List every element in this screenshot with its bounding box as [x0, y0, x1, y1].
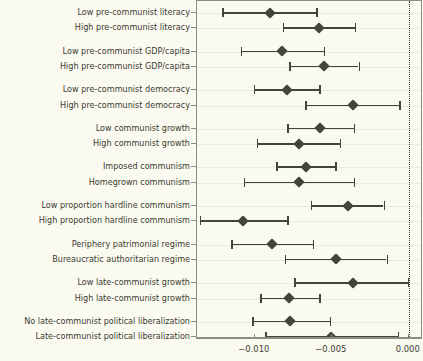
y-axis-label: Imposed communism — [0, 161, 190, 171]
estimate-row — [197, 60, 421, 74]
y-axis-label: High communist growth — [0, 138, 190, 148]
estimate-row — [197, 292, 421, 306]
ci-lower-cap — [257, 139, 259, 148]
point-estimate-marker — [293, 177, 304, 188]
y-axis-label: Low pre-communist democracy — [0, 84, 190, 94]
estimate-row — [197, 160, 421, 174]
estimate-row — [197, 99, 421, 113]
x-axis-tick-label: −0.010 — [238, 344, 269, 354]
y-axis-label: Low late-communist growth — [0, 277, 190, 287]
estimate-row — [197, 199, 421, 213]
y-axis-label: Late-communist political liberalization — [0, 331, 190, 341]
point-estimate-marker — [314, 22, 325, 33]
ci-upper-cap — [340, 139, 342, 148]
ci-upper-cap — [359, 62, 361, 71]
estimate-row — [197, 6, 421, 20]
y-axis-label: Low pre-communist literacy — [0, 7, 190, 17]
estimate-row — [197, 238, 421, 252]
ci-upper-cap — [384, 201, 386, 210]
ci-upper-cap — [313, 240, 315, 249]
point-estimate-marker — [237, 215, 248, 226]
ci-upper-cap — [335, 162, 337, 171]
y-axis-label: High pre-communist democracy — [0, 100, 190, 110]
ci-lower-cap — [285, 255, 287, 264]
ci-lower-cap — [200, 216, 202, 225]
y-axis-label: High pre-communist literacy — [0, 22, 190, 32]
ci-upper-cap — [354, 178, 356, 187]
x-axis-tick-label: 0.000 — [396, 344, 420, 354]
y-axis-label: No late-communist political liberalizati… — [0, 316, 190, 326]
ci-lower-cap — [283, 23, 285, 32]
ci-lower-cap — [294, 278, 296, 287]
ci-upper-cap — [387, 255, 389, 264]
y-axis-label: High pre-communist GDP/capita — [0, 61, 190, 71]
ci-lower-cap — [289, 62, 291, 71]
point-estimate-marker — [276, 45, 287, 56]
ci-lower-cap — [276, 162, 278, 171]
ci-lower-cap — [254, 85, 256, 94]
y-axis-label: High late-communist growth — [0, 293, 190, 303]
point-estimate-marker — [347, 277, 358, 288]
ci-lower-cap — [231, 240, 233, 249]
ci-upper-cap — [319, 85, 321, 94]
ci-upper-cap — [354, 124, 356, 133]
y-axis-label: Low proportion hardline communism — [0, 200, 190, 210]
y-axis-label: Low pre-communist GDP/capita — [0, 46, 190, 56]
y-axis-labels: Low pre-communist literacyHigh pre-commu… — [0, 0, 190, 338]
coefficient-plot-figure: Low pre-communist literacyHigh pre-commu… — [0, 0, 423, 361]
ci-upper-cap — [355, 23, 357, 32]
estimate-row — [197, 276, 421, 290]
point-estimate-marker — [293, 138, 304, 149]
ci-upper-cap — [408, 278, 410, 287]
point-estimate-marker — [285, 316, 296, 327]
ci-lower-cap — [287, 124, 289, 133]
ci-lower-cap — [260, 294, 262, 303]
ci-upper-cap — [324, 47, 326, 56]
point-estimate-marker — [342, 200, 353, 211]
x-axis-tick — [408, 334, 409, 339]
point-estimate-marker — [300, 161, 311, 172]
point-estimate-marker — [330, 254, 341, 265]
x-axis-tick — [331, 334, 332, 339]
x-axis-line — [196, 338, 422, 339]
point-estimate-marker — [264, 7, 275, 18]
estimate-row — [197, 315, 421, 329]
ci-upper-cap — [399, 101, 401, 110]
point-estimate-marker — [281, 84, 292, 95]
y-axis-label: Bureaucratic authoritarian regime — [0, 254, 190, 264]
y-axis-label: Homegrown communism — [0, 177, 190, 187]
estimate-row — [197, 83, 421, 97]
ci-lower-cap — [311, 201, 313, 210]
point-estimate-marker — [266, 238, 277, 249]
y-axis-label: Low communist growth — [0, 123, 190, 133]
estimate-row — [197, 330, 421, 338]
estimate-row — [197, 253, 421, 267]
estimate-row — [197, 122, 421, 136]
estimate-row — [197, 137, 421, 151]
y-axis-label: Periphery patrimonial regime — [0, 239, 190, 249]
y-axis-label: High proportion hardline communism — [0, 215, 190, 225]
ci-upper-cap — [316, 8, 318, 17]
x-axis: −0.010−0.0050.000 — [196, 338, 422, 361]
estimate-row — [197, 214, 421, 228]
point-estimate-marker — [318, 61, 329, 72]
ci-upper-cap — [330, 317, 332, 326]
ci-lower-cap — [222, 8, 224, 17]
ci-upper-cap — [319, 294, 321, 303]
point-estimate-marker — [347, 99, 358, 110]
x-axis-tick-label: −0.005 — [315, 344, 346, 354]
point-estimate-marker — [284, 292, 295, 303]
estimate-row — [197, 21, 421, 35]
estimate-row — [197, 176, 421, 190]
estimate-row — [197, 45, 421, 59]
ci-lower-cap — [244, 178, 246, 187]
ci-upper-cap — [287, 216, 289, 225]
x-axis-tick — [254, 334, 255, 339]
plot-area — [196, 0, 422, 338]
point-estimate-marker — [314, 123, 325, 134]
ci-lower-cap — [252, 317, 254, 326]
ci-lower-cap — [241, 47, 243, 56]
ci-lower-cap — [305, 101, 307, 110]
